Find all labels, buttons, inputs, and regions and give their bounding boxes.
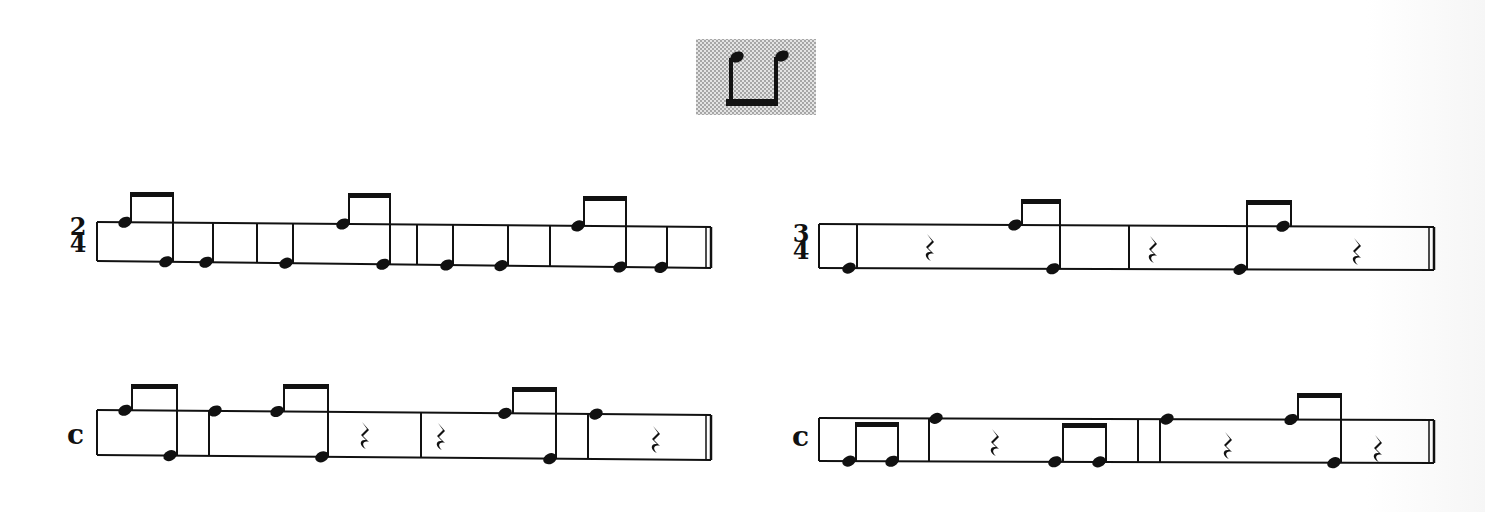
notehead <box>161 448 178 463</box>
notehead <box>1158 411 1175 426</box>
quarter-rest <box>652 426 660 453</box>
exercise-ex-3-4 <box>819 199 1434 277</box>
notehead <box>587 406 604 421</box>
quarter-rest <box>1353 238 1361 265</box>
beam <box>855 422 899 427</box>
quarter-rest <box>1224 432 1232 459</box>
quarter-rest <box>361 422 369 449</box>
notehead <box>840 453 857 468</box>
beam <box>130 192 174 197</box>
time-signature-bottom: 4 <box>790 242 812 259</box>
notehead <box>1006 217 1023 232</box>
quarter-rest <box>926 234 934 261</box>
beam <box>583 196 627 201</box>
exercises <box>97 192 1434 470</box>
staff-line-top <box>819 224 1434 227</box>
beam <box>512 387 557 392</box>
beam <box>131 384 178 389</box>
time-signature-2-4: 2 4 <box>67 218 89 252</box>
rhythm-score <box>0 0 1485 512</box>
notehead <box>197 255 214 270</box>
beam <box>348 193 391 198</box>
beam <box>1297 393 1342 398</box>
exercise-ex-c-right <box>819 393 1434 470</box>
notehead <box>374 257 391 272</box>
notehead <box>116 403 133 418</box>
quarter-rest <box>437 423 445 450</box>
time-signature-3-4: 3 4 <box>790 225 812 259</box>
staff-line-top <box>97 222 711 227</box>
beam <box>1062 423 1107 428</box>
notehead <box>927 411 944 426</box>
notehead <box>1274 219 1291 234</box>
beam <box>1021 199 1061 204</box>
quarter-rest <box>1149 236 1157 263</box>
notehead <box>496 406 513 421</box>
notehead <box>840 260 857 275</box>
notehead <box>1231 262 1248 277</box>
beam <box>1246 200 1292 205</box>
common-time-symbol: c <box>792 420 809 453</box>
quarter-rest <box>1374 435 1382 462</box>
beamed-eighth-notes-icon <box>696 39 816 115</box>
staff-line-top <box>97 410 711 415</box>
notehead <box>1090 454 1107 469</box>
common-time-symbol: c <box>67 418 84 451</box>
notehead <box>1282 412 1299 427</box>
music-page: 2 4 3 4 c c <box>0 0 1485 512</box>
notehead <box>157 254 174 269</box>
beam <box>283 384 329 389</box>
time-signature-bottom: 4 <box>67 235 89 252</box>
quarter-rest <box>991 429 999 456</box>
staff-line-bottom <box>819 268 1434 270</box>
staff-line-bottom <box>97 455 711 460</box>
notehead <box>1044 261 1061 276</box>
notehead <box>277 255 294 270</box>
beam <box>726 99 778 106</box>
notehead <box>268 404 285 419</box>
exercise-ex-c-left <box>97 384 711 466</box>
notehead <box>1046 454 1063 469</box>
notehead <box>492 258 509 273</box>
notehead <box>1325 455 1342 470</box>
exercise-ex-2-4 <box>97 192 711 275</box>
